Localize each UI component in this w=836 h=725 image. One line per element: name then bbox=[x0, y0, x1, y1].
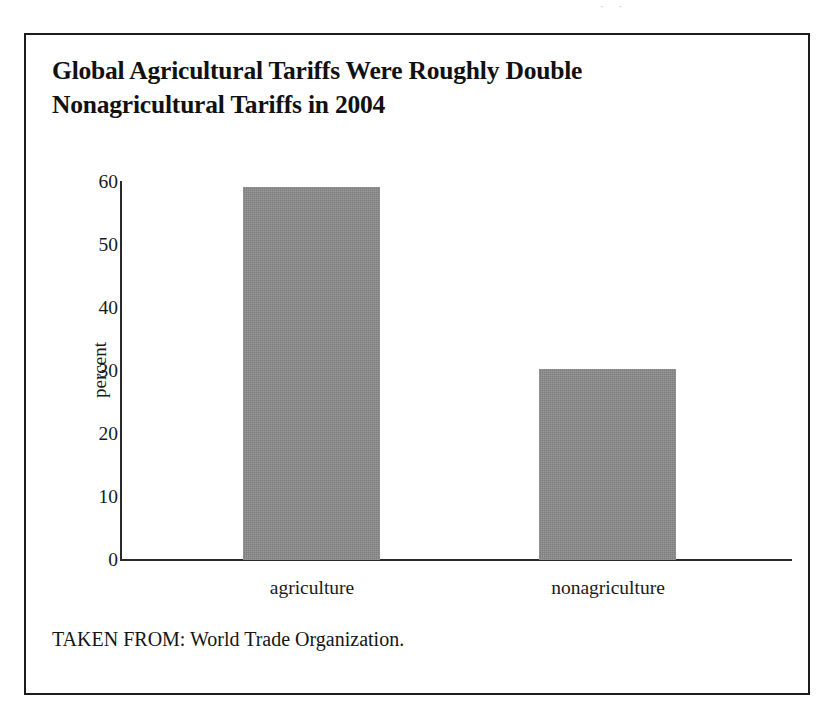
scan-artifact: · · bbox=[600, 0, 628, 12]
figure-frame: Global Agricultural Tariffs Were Roughly… bbox=[24, 33, 810, 695]
source-note: TAKEN FROM: World Trade Organization. bbox=[52, 628, 404, 651]
bars-layer bbox=[26, 35, 812, 697]
bar-nonagriculture[interactable] bbox=[539, 369, 676, 560]
x-category-label-agriculture: agriculture bbox=[270, 577, 354, 599]
bar-agriculture[interactable] bbox=[243, 187, 380, 560]
chart-plot-area: percent 0 10 20 30 40 50 60 agriculture … bbox=[26, 35, 812, 697]
x-category-label-nonagriculture: nonagriculture bbox=[551, 577, 665, 599]
